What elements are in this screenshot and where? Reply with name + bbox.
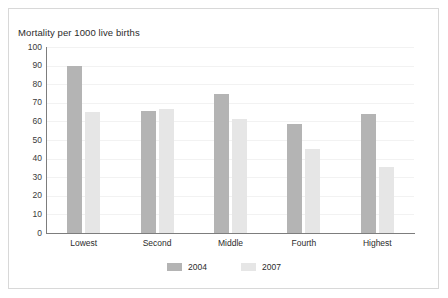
y-axis-tick-label: 20 — [16, 191, 42, 200]
bar-2007-second[interactable] — [159, 109, 174, 233]
y-axis-tick-labels: 0102030405060708090100 — [14, 0, 42, 298]
x-axis-category-label: Middle — [194, 238, 267, 248]
y-axis-tick-label: 100 — [16, 43, 42, 52]
y-axis-tick-label: 80 — [16, 80, 42, 89]
x-axis-category-label: Highest — [341, 238, 414, 248]
bar-group — [214, 47, 247, 233]
bar-2007-middle[interactable] — [232, 119, 247, 233]
y-axis-tick-label: 10 — [16, 210, 42, 219]
legend-swatch-icon — [241, 263, 256, 271]
bar-group — [361, 47, 394, 233]
legend-label: 2004 — [188, 262, 207, 272]
bar-2004-lowest[interactable] — [67, 66, 82, 233]
y-axis-tick-label: 40 — [16, 154, 42, 163]
chart-figure: Mortality per 1000 live births 010203040… — [0, 0, 448, 298]
y-axis-tick-label: 70 — [16, 98, 42, 107]
plot-area — [47, 47, 414, 233]
chart-legend: 20042007 — [0, 262, 448, 272]
legend-item[interactable]: 2004 — [167, 262, 207, 272]
y-axis-tick-label: 50 — [16, 136, 42, 145]
legend-swatch-icon — [167, 263, 182, 271]
bar-2004-middle[interactable] — [214, 94, 229, 234]
x-axis-category-label: Fourth — [267, 238, 340, 248]
bar-2004-fourth[interactable] — [287, 124, 302, 233]
bar-group — [67, 47, 100, 233]
bar-2007-lowest[interactable] — [85, 112, 100, 233]
legend-label: 2007 — [262, 262, 281, 272]
bar-2004-highest[interactable] — [361, 114, 376, 233]
bar-2007-fourth[interactable] — [305, 149, 320, 233]
y-axis-tick-label: 60 — [16, 117, 42, 126]
x-axis-category-label: Second — [120, 238, 193, 248]
bar-group — [287, 47, 320, 233]
legend-item[interactable]: 2007 — [241, 262, 281, 272]
y-axis-tick-label: 30 — [16, 173, 42, 182]
bar-2007-highest[interactable] — [379, 167, 394, 233]
x-axis-line — [46, 233, 415, 234]
y-axis-tick-label: 0 — [16, 229, 42, 238]
x-axis-category-label: Lowest — [47, 238, 120, 248]
y-axis-tick-label: 90 — [16, 61, 42, 70]
bar-2004-second[interactable] — [141, 111, 156, 233]
bar-group — [141, 47, 174, 233]
